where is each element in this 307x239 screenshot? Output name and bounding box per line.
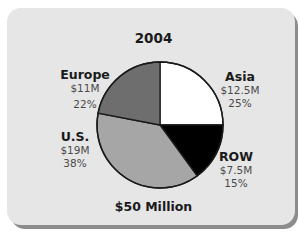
- label-europe: Europe $11M 22%: [60, 68, 110, 111]
- label-us: U.S. $19M 38%: [52, 130, 98, 170]
- chart-total: $50 Million: [0, 199, 307, 214]
- pie-slice-asia: [160, 62, 223, 125]
- label-asia: Asia $12.5M 25%: [215, 70, 265, 110]
- label-row: ROW $7.5M 15%: [213, 150, 259, 190]
